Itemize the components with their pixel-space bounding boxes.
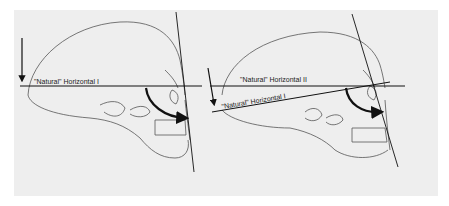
left-facial-line xyxy=(176,12,194,172)
left-label-horizontal-i: "Natural" Horizontal I xyxy=(34,78,99,85)
right-label-horizontal-ii: "Natural" Horizontal II xyxy=(240,76,307,83)
skull-diagram: "Natural" Horizontal I "Natural" Horizon… xyxy=(0,0,449,206)
left-curved-arrow-icon xyxy=(146,88,185,118)
right-skull xyxy=(222,32,390,158)
right-facial-line xyxy=(352,14,398,167)
left-skull xyxy=(28,22,190,158)
